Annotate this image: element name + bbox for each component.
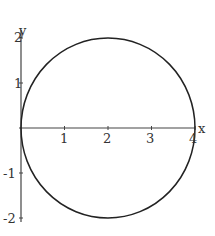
x-tick-label: 4 — [189, 131, 197, 146]
y-axis-label: y — [18, 23, 27, 38]
x-tick-label: 1 — [60, 131, 68, 146]
y-tick-label: -2 — [3, 211, 16, 226]
x-tick-label: 2 — [103, 131, 111, 146]
x-axis-label: x — [198, 121, 206, 136]
x-tick-label: 3 — [146, 131, 154, 146]
y-tick-label: 1 — [14, 76, 22, 91]
circle-plot: 1 2 3 4 2 1 -1 -2 x y — [0, 0, 215, 236]
y-tick-label: -1 — [3, 166, 16, 181]
